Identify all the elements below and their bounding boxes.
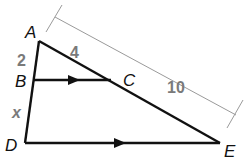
- label-e: E: [224, 142, 236, 161]
- triangle-ade: [25, 41, 220, 143]
- measure-ac: 4: [70, 44, 79, 61]
- label-a: A: [24, 23, 36, 42]
- label-b: B: [15, 72, 26, 91]
- label-d: D: [5, 136, 17, 155]
- parallel-arrow-de-icon: [114, 138, 126, 148]
- segment-ad: [25, 41, 39, 143]
- parallel-arrow-bc-icon: [68, 75, 80, 85]
- triangle-diagram: A B C D E 2 x 4 10: [0, 0, 245, 164]
- measure-bd: x: [11, 104, 22, 121]
- label-c: C: [123, 71, 136, 90]
- measure-ab: 2: [17, 52, 26, 69]
- measure-ae: 10: [167, 79, 185, 96]
- dimension-line-ae: [46, 5, 243, 128]
